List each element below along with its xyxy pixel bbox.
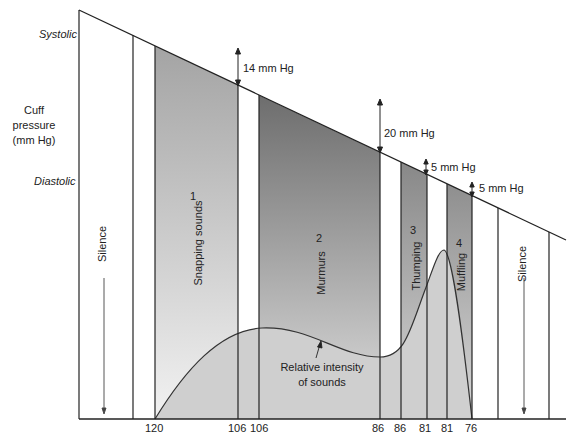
x-tick-86a: 86 — [372, 422, 384, 434]
phase-name-1: Snapping sounds — [192, 193, 204, 293]
x-tick-76: 76 — [465, 422, 477, 434]
x-tick-81b: 81 — [441, 422, 453, 434]
silence-arrow-left — [102, 278, 106, 414]
drop-label-14: 14 mm Hg — [243, 62, 294, 74]
y-axis-label-line1: Cuff — [4, 103, 64, 118]
phase-name-4: Muffling — [455, 244, 467, 300]
intensity-label-line1: Relative intensity — [268, 360, 376, 375]
phase-name-3: Thumping — [410, 236, 422, 296]
drop-arrow-14 — [236, 48, 241, 86]
intensity-label: Relative intensity of sounds — [268, 360, 376, 390]
diastolic-label: Diastolic — [34, 175, 76, 187]
drop-label-5b: 5 mm Hg — [479, 182, 524, 194]
systolic-label: Systolic — [39, 28, 77, 40]
drop-label-20: 20 mm Hg — [384, 127, 435, 139]
phase-name-silence-left: Silence — [96, 209, 108, 279]
y-axis-label: Cuff pressure (mm Hg) — [4, 103, 64, 148]
x-tick-120: 120 — [145, 422, 163, 434]
intensity-label-line2: of sounds — [268, 375, 376, 390]
drop-arrow-20 — [378, 99, 383, 153]
y-axis-label-line3: (mm Hg) — [4, 133, 64, 148]
x-tick-106a: 106 — [228, 422, 246, 434]
phase-name-silence-right: Silence — [516, 229, 528, 299]
phase-name-2: Murmurs — [315, 243, 327, 303]
drop-label-5a: 5 mm Hg — [431, 161, 476, 173]
drop-arrow-5a — [424, 159, 428, 175]
phase-number-3: 3 — [410, 224, 416, 236]
x-tick-81a: 81 — [419, 422, 431, 434]
x-tick-86b: 86 — [394, 422, 406, 434]
y-axis-label-line2: pressure — [4, 118, 64, 133]
x-tick-106b: 106 — [250, 422, 268, 434]
